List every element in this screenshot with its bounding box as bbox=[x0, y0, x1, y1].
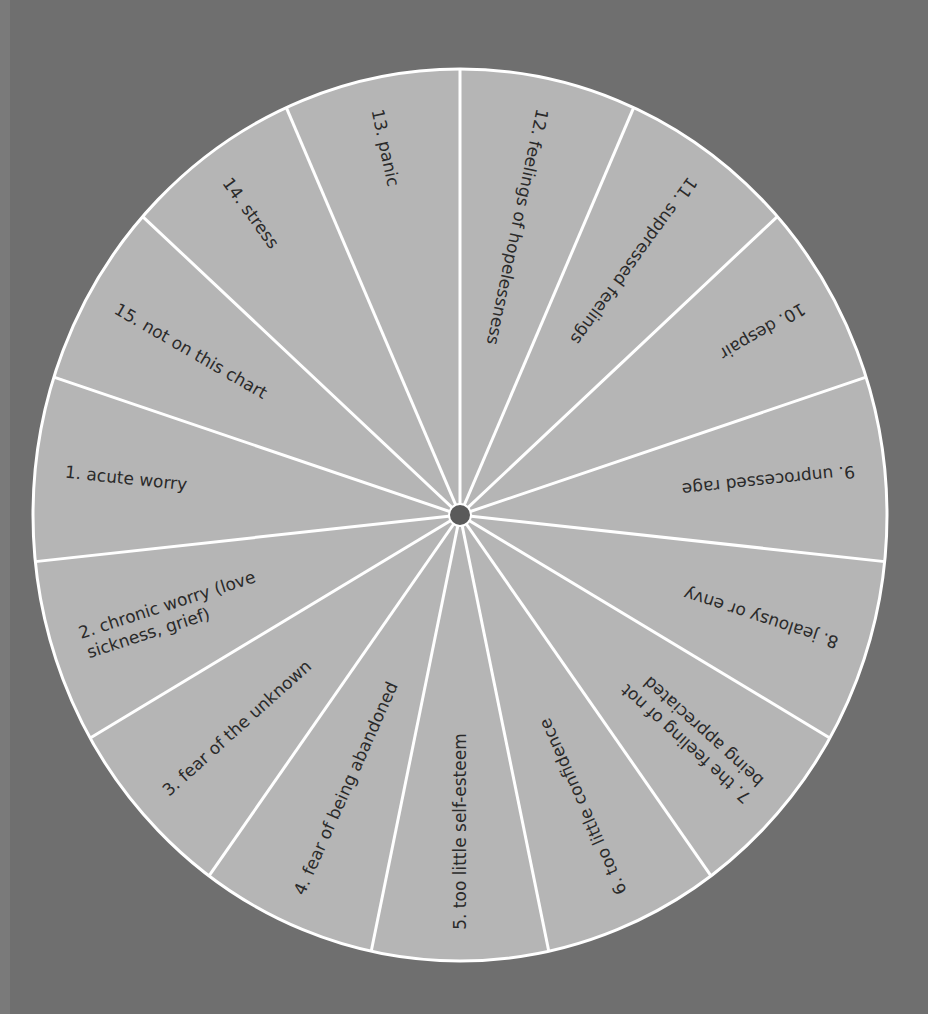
background-edge bbox=[0, 0, 10, 1014]
hub-dot bbox=[449, 504, 471, 526]
pendulum-chart-page: 1. acute worry2. chronic worry (lovesick… bbox=[0, 0, 928, 1014]
segment-label-text: 5. too little self-esteem bbox=[450, 733, 470, 930]
segment-label-5: 5. too little self-esteem bbox=[450, 733, 470, 930]
emotion-wheel: 1. acute worry2. chronic worry (lovesick… bbox=[0, 0, 928, 1014]
